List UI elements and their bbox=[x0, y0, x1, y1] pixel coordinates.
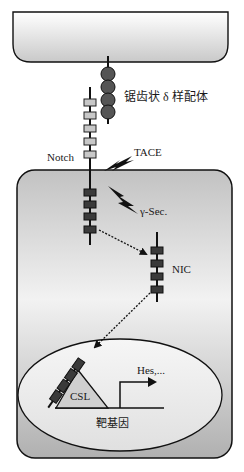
notch-label: Notch bbox=[47, 151, 74, 163]
target-gene-label: 靶基因 bbox=[96, 417, 129, 429]
notch-pathway-diagram: 锯齿状 δ 样配体 Notch TACE γ-Sec. NIC bbox=[0, 0, 244, 472]
nic-label: NIC bbox=[172, 263, 191, 275]
gamma-secretase-label: γ-Sec. bbox=[139, 205, 167, 217]
tace-lightning-icon bbox=[104, 156, 134, 171]
ligand-icon bbox=[101, 56, 115, 124]
csl-label: CSL bbox=[70, 390, 90, 402]
hes-label: Hes,... bbox=[137, 364, 165, 376]
tace-label: TACE bbox=[134, 146, 162, 158]
signaling-cell bbox=[13, 12, 228, 62]
ligand-label: 锯齿状 δ 样配体 bbox=[124, 89, 208, 104]
